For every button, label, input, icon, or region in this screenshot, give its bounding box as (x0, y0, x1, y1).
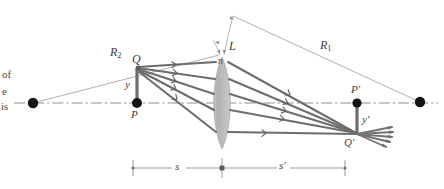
label-lens-L: L (229, 40, 236, 52)
label-image-top-Q-prime: Q′ (344, 137, 354, 148)
arrowhead-diverging-3 (388, 135, 393, 139)
label-radius-2: R2 (110, 46, 121, 60)
label-object-base-P: P (131, 109, 138, 120)
cropped-caption-line-2: e (2, 85, 7, 98)
dimension-line (132, 158, 347, 178)
arrowhead-diverging-2 (389, 130, 394, 134)
label-object-distance-s: s (175, 161, 179, 172)
label-refractive-index-n: n (218, 56, 223, 66)
label-image-height-y-prime: y′ (362, 114, 369, 125)
dimension-square-mid (220, 166, 225, 171)
arrowhead-R2-lens (217, 49, 222, 54)
ray-diagram-svg (0, 0, 444, 189)
dot-center-curvature-right (415, 97, 425, 107)
dimension-dot-right (344, 167, 347, 170)
dot-object-point-P (132, 98, 142, 108)
emergent-ray-direction-marks (262, 89, 292, 136)
label-object-height-y: y (125, 79, 130, 90)
cropped-caption-line-1: of (2, 68, 11, 81)
label-image-distance-s-prime: s′ (279, 160, 286, 171)
arrowhead-R1-lens (222, 49, 226, 54)
incident-ray-5 (138, 71, 216, 132)
radius-line-R1 (233, 16, 420, 102)
emergent-ray-2 (229, 79, 356, 133)
lens-body (214, 57, 231, 149)
cropped-caption-line-3: is (1, 100, 8, 113)
label-object-top-Q: Q (132, 53, 141, 65)
label-radius-1: R1 (320, 39, 331, 53)
label-image-base-P-prime: P′ (351, 84, 360, 95)
dot-image-point-P-prime (352, 98, 361, 107)
dot-center-curvature-left (28, 98, 38, 108)
dot-object-point-Q (136, 66, 141, 71)
arrowhead-diverging-5 (382, 143, 388, 148)
figure-canvas: of e is R2 R1 Q P y L n P′ y′ Q′ s s′ (0, 0, 444, 189)
emergent-ray-5 (228, 132, 356, 134)
dimension-dot-left (132, 167, 135, 170)
diverging-rays-after-image (357, 127, 393, 147)
emergent-rays (228, 62, 356, 134)
